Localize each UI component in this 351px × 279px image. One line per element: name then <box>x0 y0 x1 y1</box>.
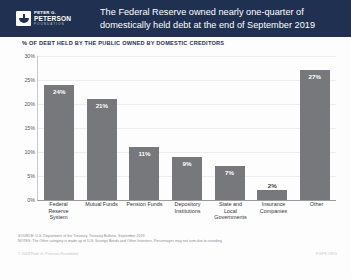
x-axis-category-label: Other <box>295 201 338 221</box>
page-title-line-2: domestically held debt at the end of Sep… <box>100 19 315 31</box>
x-axis-category-label: FederalReserveSystem <box>37 201 80 221</box>
x-axis-labels: FederalReserveSystemMutual FundsPension … <box>37 201 338 221</box>
logo-wordmark: PETER G. PETERSON FOUNDATION <box>34 11 71 27</box>
bar-value-label: 11% <box>129 150 159 157</box>
header-band: PETER G. PETERSON FOUNDATION The Federal… <box>0 0 351 37</box>
y-axis-tick-label: 25% <box>24 77 35 83</box>
bar-slot: 11% <box>123 56 166 200</box>
page-title-line-1: The Federal Reserve owned nearly one-qua… <box>100 6 315 18</box>
bar-slot: 2% <box>251 56 294 200</box>
x-axis-category-label: Pension Funds <box>123 201 166 221</box>
logo-line-2: PETERSON <box>34 16 71 23</box>
footnotes: SOURCE: U.S. Department of the Treasury,… <box>18 234 333 243</box>
bar-value-label: 2% <box>257 182 287 189</box>
x-axis-category-label: InsuranceCompanies <box>252 201 295 221</box>
chart-subtitle: % OF DEBT HELD BY THE PUBLIC OWNED BY DO… <box>22 40 224 46</box>
y-axis-tick-label: 0% <box>27 197 35 203</box>
bar-value-label: 9% <box>172 160 202 167</box>
bar[interactable]: 21% <box>87 99 117 200</box>
logo-line-3: FOUNDATION <box>34 23 71 26</box>
bar-value-label: 21% <box>87 102 117 109</box>
pgpf-logo: PETER G. PETERSON FOUNDATION <box>16 11 90 27</box>
y-axis-tick-label: 5% <box>27 173 35 179</box>
bar-slot: 7% <box>208 56 251 200</box>
bar-value-label: 24% <box>44 88 74 95</box>
bar-slot: 24% <box>38 56 81 200</box>
x-axis-category-label: DepositoryInstitutions <box>166 201 209 221</box>
infographic-page: PETER G. PETERSON FOUNDATION The Federal… <box>0 0 351 279</box>
bar[interactable]: 9% <box>172 157 202 200</box>
bar-slot: 21% <box>81 56 124 200</box>
bar-slot: 9% <box>166 56 209 200</box>
y-axis-tick-label: 10% <box>24 149 35 155</box>
bar[interactable]: 2% <box>257 190 287 200</box>
bar[interactable]: 7% <box>215 166 245 200</box>
y-axis-tick-label: 15% <box>24 125 35 131</box>
y-axis-tick-label: 20% <box>24 101 35 107</box>
plot-area: 30%25%20%15%10%5%0% 24%21%11%9%7%2%27% <box>37 56 336 201</box>
y-axis-tick-label: 30% <box>24 53 35 59</box>
bar-chart: 30%25%20%15%10%5%0% 24%21%11%9%7%2%27% <box>18 53 338 201</box>
bar[interactable]: 11% <box>129 147 159 200</box>
notes-note: NOTES: The Other category is made up of … <box>18 239 333 244</box>
page-title: The Federal Reserve owned nearly one-qua… <box>100 6 315 30</box>
peterson-bowl-logo-icon <box>16 11 31 26</box>
bar[interactable]: 27% <box>300 70 330 200</box>
pgpf-url-text: PGPF.ORG <box>316 252 337 256</box>
bar-series: 24%21%11%9%7%2%27% <box>38 56 336 200</box>
x-axis-category-label: Mutual Funds <box>80 201 123 221</box>
bar-slot: 27% <box>293 56 336 200</box>
bar-value-label: 27% <box>300 73 330 80</box>
copyright-text: © 2019 Peter G. Peterson Foundation <box>18 252 79 256</box>
bar-value-label: 7% <box>215 169 245 176</box>
x-axis-category-label: State andLocalGovernments <box>209 201 252 221</box>
bar[interactable]: 24% <box>44 85 74 200</box>
